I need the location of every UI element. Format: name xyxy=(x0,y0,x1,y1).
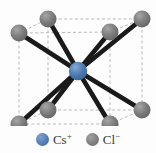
cesium-ion-center xyxy=(69,62,87,80)
chloride-ion-front-bottom-left xyxy=(40,102,57,119)
cube-edge-back-top xyxy=(19,32,110,33)
legend-symbol-chloride: Cl xyxy=(103,132,115,147)
legend-item-cesium: Cs+ xyxy=(36,133,72,146)
legend-charge-cesium: + xyxy=(67,131,72,141)
chloride-ion-front-bottom-right xyxy=(134,102,151,119)
cscl-unit-cell-figure: Cs+ Cl− xyxy=(0,0,156,153)
crystal-lattice-diagram xyxy=(0,0,156,126)
legend-item-chloride: Cl− xyxy=(86,133,120,146)
legend-charge-chloride: − xyxy=(115,131,120,141)
legend: Cs+ Cl− xyxy=(0,126,156,153)
sphere-icon-cesium xyxy=(36,133,49,146)
sphere-icon-chloride xyxy=(86,133,99,146)
legend-label-cesium: Cs+ xyxy=(53,133,72,146)
legend-label-chloride: Cl− xyxy=(103,133,120,146)
chloride-ion-back-top-right xyxy=(102,24,119,41)
chloride-ion-front-top-right xyxy=(134,11,151,28)
chloride-ion-front-top-left xyxy=(40,11,57,28)
legend-symbol-cesium: Cs xyxy=(53,132,67,147)
chloride-ion-back-top-left xyxy=(11,25,28,42)
